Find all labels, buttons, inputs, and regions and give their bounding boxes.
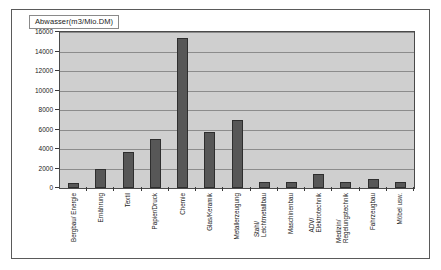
x-axis-tick-mark xyxy=(113,187,114,191)
x-axis-tick-mark xyxy=(86,187,87,191)
gridline xyxy=(60,52,414,53)
x-axis-tick-label: ADV/Elektrotechnik xyxy=(311,191,325,267)
x-axis-label-line: Papier/Druck xyxy=(151,193,158,229)
y-axis-tick-label: 2000 xyxy=(39,164,53,171)
x-axis-tick-mark xyxy=(277,187,278,191)
y-axis-tick-mark xyxy=(55,129,59,130)
bar xyxy=(123,152,134,188)
x-axis: Bergbau/ EnergieErnährungTextilPapier/Dr… xyxy=(59,191,415,267)
x-axis-label-line: Maschinenbau xyxy=(287,193,294,234)
x-axis-label-line: Leichtmetallbau xyxy=(260,193,267,237)
y-axis-tick-label: 8000 xyxy=(39,106,53,113)
bar xyxy=(150,139,161,188)
x-axis-label-line: Metallerzeugung xyxy=(233,193,240,240)
y-axis-tick-label: 12000 xyxy=(35,67,53,74)
gridline xyxy=(60,32,414,33)
y-axis-tick-mark xyxy=(55,109,59,110)
y-axis-tick-mark xyxy=(55,168,59,169)
bar xyxy=(232,120,243,188)
bar xyxy=(368,179,379,188)
x-axis-tick-label: Stahl/Leichtmetallbau xyxy=(256,191,270,267)
bar xyxy=(395,182,406,188)
x-axis-label-line: Textil xyxy=(124,193,131,207)
gridline xyxy=(60,110,414,111)
x-axis-tick-mark xyxy=(386,187,387,191)
plot-inner xyxy=(60,32,414,188)
x-axis-tick-mark xyxy=(250,187,251,191)
bar xyxy=(95,169,106,188)
x-axis-label-line: Regelungstechnik xyxy=(342,193,349,243)
y-axis-tick-mark xyxy=(55,70,59,71)
plot-area xyxy=(59,31,415,189)
y-axis-tick-label: 10000 xyxy=(35,86,53,93)
x-axis-tick-mark xyxy=(168,187,169,191)
x-axis-tick-label: Maschinenbau xyxy=(283,191,297,267)
y-axis-tick-mark xyxy=(55,51,59,52)
bar xyxy=(68,183,79,188)
x-axis-tick-mark xyxy=(359,187,360,191)
y-axis-tick-label: 6000 xyxy=(39,125,53,132)
x-axis-tick-label: Möbel usw. xyxy=(392,191,406,267)
x-axis-tick-mark xyxy=(304,187,305,191)
y-axis: 0200040006000800010000120001400016000 xyxy=(20,26,56,194)
y-axis-tick-label: 16000 xyxy=(35,28,53,35)
x-axis-tick-label: Metallerzeugung xyxy=(229,191,243,267)
x-axis-tick-mark xyxy=(195,187,196,191)
x-axis-label-line: Medizin/ xyxy=(335,193,342,243)
x-axis-tick-label: Glas/Keramik xyxy=(202,191,216,267)
x-axis-tick-label: Bergbau/ Energie xyxy=(66,191,80,267)
y-axis-tick-mark xyxy=(55,148,59,149)
y-axis-tick-mark xyxy=(55,90,59,91)
bar xyxy=(286,182,297,188)
bar xyxy=(177,38,188,188)
x-axis-tick-mark xyxy=(413,187,414,191)
x-axis-tick-label: Chemie xyxy=(175,191,189,267)
x-axis-label-line: Bergbau/ Energie xyxy=(69,193,76,242)
x-axis-label-line: Ernährung xyxy=(96,193,103,222)
x-axis-tick-label: Ernährung xyxy=(93,191,107,267)
y-axis-tick-mark xyxy=(55,187,59,188)
x-axis-tick-label: Textil xyxy=(120,191,134,267)
y-axis-tick-label: 14000 xyxy=(35,47,53,54)
gridline xyxy=(60,91,414,92)
x-axis-tick-mark xyxy=(331,187,332,191)
bar xyxy=(259,182,270,188)
x-axis-tick-label: Medizin/Regelungstechnik xyxy=(338,191,352,267)
bar xyxy=(204,132,215,188)
bar xyxy=(340,182,351,188)
y-axis-tick-label: 4000 xyxy=(39,145,53,152)
chart-frame: Abwasser(m3/Mio.DM) 02000400060008000100… xyxy=(11,9,430,259)
x-axis-tick-mark xyxy=(222,187,223,191)
x-axis-label-line: Glas/Keramik xyxy=(205,193,212,231)
gridline xyxy=(60,71,414,72)
x-axis-label-line: ADV/ xyxy=(308,193,315,233)
x-axis-label-line: Fahrzeugbau xyxy=(369,193,376,230)
x-axis-tick-mark xyxy=(141,187,142,191)
x-axis-label-line: Elektrotechnik xyxy=(315,193,322,233)
bar xyxy=(313,174,324,188)
y-axis-tick-label: 0 xyxy=(49,184,53,191)
x-axis-tick-label: Fahrzeugbau xyxy=(365,191,379,267)
x-axis-label-line: Möbel usw. xyxy=(396,193,403,225)
x-axis-label-line: Chemie xyxy=(178,193,185,215)
y-axis-tick-mark xyxy=(55,31,59,32)
x-axis-tick-label: Papier/Druck xyxy=(147,191,161,267)
